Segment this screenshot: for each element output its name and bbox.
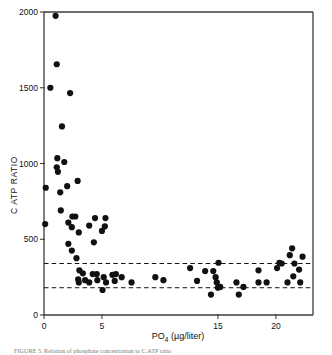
data-point [67, 90, 73, 96]
data-point [187, 265, 193, 271]
data-point [113, 271, 119, 277]
data-point [42, 221, 48, 227]
data-point [291, 260, 297, 266]
data-point [43, 185, 49, 191]
data-point [76, 229, 82, 235]
data-point [59, 123, 65, 129]
data-point [54, 155, 60, 161]
data-point [274, 265, 280, 271]
data-point [58, 207, 64, 213]
figure-scatter-plot: 0500100015002000 051520 C ATP RATIO PO4 … [0, 0, 332, 355]
data-point [160, 277, 166, 283]
data-point [103, 279, 109, 285]
data-point [69, 248, 75, 254]
data-point [55, 169, 61, 175]
data-point [101, 274, 107, 280]
data-point [208, 291, 214, 297]
data-point [76, 279, 82, 285]
y-axis-tick-labels: 0500100015002000 [19, 7, 38, 320]
x-axis-title: PO4 (µg/liter) [152, 331, 204, 343]
data-point [299, 254, 305, 260]
data-point [255, 267, 261, 273]
y-tick-label: 500 [24, 234, 38, 244]
x-tick-label: 15 [213, 321, 223, 331]
scatter-plot-canvas: 0500100015002000 051520 C ATP RATIO PO4 … [0, 0, 332, 355]
data-point [72, 213, 78, 219]
data-point [194, 278, 200, 284]
plot-frame [44, 12, 313, 315]
data-point [80, 270, 86, 276]
data-point [94, 277, 100, 283]
data-point [240, 284, 246, 290]
y-tick-label: 2000 [19, 7, 38, 17]
data-point [233, 279, 239, 285]
data-point [65, 241, 71, 247]
data-point [69, 224, 75, 230]
data-point [279, 260, 285, 266]
data-point [64, 183, 70, 189]
data-point [99, 228, 105, 234]
data-point [52, 13, 58, 19]
y-tick-label: 1000 [19, 159, 38, 169]
data-point [86, 279, 92, 285]
data-point [290, 273, 296, 279]
data-point [91, 239, 97, 245]
data-point [73, 255, 79, 261]
data-point [210, 268, 216, 274]
data-point [297, 279, 303, 285]
data-point [92, 215, 98, 221]
data-point [264, 279, 270, 285]
data-point [236, 291, 242, 297]
x-tick-label: 5 [100, 321, 105, 331]
data-point [202, 268, 208, 274]
y-tick-label: 0 [33, 310, 38, 320]
data-point [47, 85, 53, 91]
data-point [215, 285, 221, 291]
data-point [61, 159, 67, 165]
y-axis-title: C ATP RATIO [9, 156, 19, 214]
data-point [284, 279, 290, 285]
figure-caption: FIGURE 5. Relation of phosphate concentr… [14, 347, 320, 354]
data-point [75, 178, 81, 184]
data-point [255, 279, 261, 285]
data-point [215, 260, 221, 266]
data-point [99, 287, 105, 293]
data-point [296, 266, 302, 272]
data-point [287, 252, 293, 258]
data-point [289, 245, 295, 251]
data-point [152, 274, 158, 280]
x-tick-label: 0 [42, 321, 47, 331]
data-point [102, 215, 108, 221]
x-tick-label: 20 [271, 321, 281, 331]
data-point-series [42, 13, 306, 298]
data-point [119, 274, 125, 280]
x-axis-tick-labels: 051520 [42, 321, 281, 331]
y-tick-label: 1500 [19, 83, 38, 93]
data-point [128, 279, 134, 285]
data-point [112, 278, 118, 284]
data-point [54, 61, 60, 67]
data-point [57, 189, 63, 195]
data-point [86, 223, 92, 229]
data-point [94, 271, 100, 277]
data-point [213, 274, 219, 280]
